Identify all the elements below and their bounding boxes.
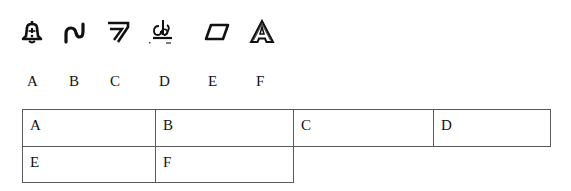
letter-e: E (208, 72, 217, 90)
parallelogram-icon (203, 18, 231, 46)
letter-row: A B C D E F (0, 72, 571, 92)
letter-b: B (69, 72, 79, 90)
letter-c: C (110, 72, 120, 90)
letter-d: D (159, 72, 170, 90)
double-chevron-icon (105, 18, 133, 46)
table-cell-c: C (293, 109, 434, 147)
table-cell-e: E (22, 146, 156, 183)
letter-a: A (27, 72, 38, 90)
icon-row (0, 0, 571, 60)
glyph-symbol-icon (148, 18, 176, 46)
outlined-a-icon (248, 18, 276, 46)
table-cell-b: B (155, 109, 294, 147)
warning-bell-icon (18, 18, 46, 46)
letter-f: F (256, 72, 264, 90)
wave-curve-icon (61, 18, 89, 46)
table-cell-f: F (155, 146, 294, 183)
table-cell-a: A (22, 109, 156, 147)
table-cell-d: D (433, 109, 551, 147)
